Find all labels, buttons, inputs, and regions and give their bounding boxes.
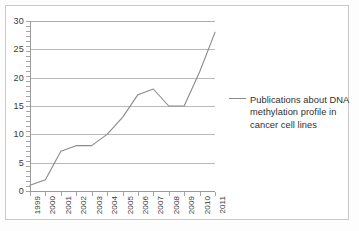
y-axis-tick-mark [26, 101, 30, 102]
y-axis-tick-label: 5 [19, 158, 24, 167]
y-axis-tick-mark [26, 146, 30, 147]
legend-line-swatch-icon [229, 94, 246, 103]
y-axis-tick-mark [26, 96, 30, 97]
y-axis-tick-mark [26, 91, 30, 92]
y-axis-tick-mark [26, 131, 30, 132]
x-axis-tick-label: 2001 [65, 196, 73, 214]
plot-area [30, 21, 215, 191]
x-axis-tick-label: 2007 [157, 196, 165, 214]
x-axis-tick-label: 2010 [204, 196, 212, 214]
y-axis-tick-mark [26, 41, 30, 42]
y-axis-tick-mark [26, 31, 30, 32]
y-axis-line [30, 21, 31, 192]
x-axis-tick-label: 2004 [111, 196, 119, 214]
y-axis-labels: 051015202530 [0, 0, 26, 231]
x-axis-tick-label: 2011 [219, 196, 227, 214]
y-axis-tick-mark [26, 21, 30, 22]
x-axis-tick-label: 2005 [127, 196, 135, 214]
chart-figure: 051015202530 199920002001200220032004200… [0, 0, 359, 231]
y-axis-tick-mark [26, 166, 30, 167]
chart-legend: Publications about DNA methylation profi… [229, 94, 351, 131]
y-axis-tick-mark [26, 176, 30, 177]
y-axis-tick-label: 15 [14, 102, 24, 111]
y-axis-tick-mark [26, 66, 30, 67]
y-axis-tick-mark [26, 46, 30, 47]
y-axis-tick-label: 20 [14, 73, 24, 82]
y-axis-tick-mark [26, 126, 30, 127]
y-axis-tick-mark [26, 76, 30, 77]
legend-entry-label: Publications about DNA methylation profi… [250, 94, 351, 131]
x-axis-tick-label: 2003 [96, 196, 104, 214]
x-axis-tick-label: 2006 [142, 196, 150, 214]
y-axis-tick-mark [26, 56, 30, 57]
y-axis-tick-mark [26, 171, 30, 172]
x-axis-tick-label: 2002 [80, 196, 88, 214]
y-axis-ticks [26, 21, 30, 192]
y-axis-tick-mark [26, 181, 30, 182]
y-axis-tick-mark [26, 86, 30, 87]
series-line-chart [30, 21, 215, 191]
y-axis-tick-mark [26, 186, 30, 187]
x-axis-tick-label: 2000 [49, 196, 57, 214]
y-axis-tick-label: 0 [19, 187, 24, 196]
y-axis-tick-mark [26, 116, 30, 117]
y-axis-tick-mark [26, 61, 30, 62]
y-axis-tick-mark [26, 121, 30, 122]
y-axis-tick-mark [26, 161, 30, 162]
y-axis-tick-mark [26, 151, 30, 152]
x-axis-tick-label: 2009 [188, 196, 196, 214]
series-polyline [30, 32, 215, 185]
y-axis-tick-mark [26, 71, 30, 72]
x-axis-tick-mark [215, 192, 216, 196]
y-axis-tick-mark [26, 36, 30, 37]
y-axis-tick-mark [26, 111, 30, 112]
y-axis-tick-label: 10 [14, 130, 24, 139]
y-axis-tick-label: 25 [14, 45, 24, 54]
y-axis-tick-mark [26, 26, 30, 27]
y-axis-tick-mark [26, 51, 30, 52]
x-axis-tick-label: 2008 [173, 196, 181, 214]
y-axis-tick-mark [26, 81, 30, 82]
y-axis-tick-mark [26, 136, 30, 137]
x-axis-tick-label: 1999 [34, 196, 42, 214]
y-axis-tick-mark [26, 106, 30, 107]
x-axis-labels: 1999200020012002200320042005200620072008… [30, 196, 215, 230]
y-axis-tick-mark [26, 141, 30, 142]
y-axis-tick-label: 30 [14, 17, 24, 26]
y-axis-tick-mark [26, 156, 30, 157]
